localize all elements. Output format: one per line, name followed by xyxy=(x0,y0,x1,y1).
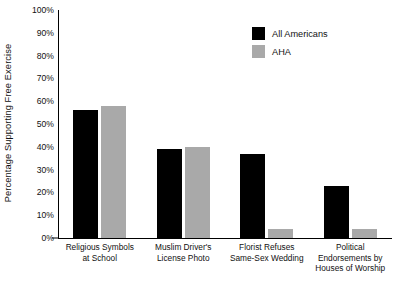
bar xyxy=(185,147,210,238)
x-axis-category-label: Florist RefusesSame-Sex Wedding xyxy=(225,242,309,263)
bar xyxy=(73,110,98,238)
legend-item: AHA xyxy=(252,45,372,58)
x-axis-category-labels: Religious Symbolsat SchoolMuslim Driver'… xyxy=(58,242,392,287)
y-axis-tick-label: 50% xyxy=(37,119,54,129)
x-axis-line xyxy=(58,238,392,239)
bar xyxy=(352,229,377,238)
bar xyxy=(101,106,126,238)
bar-chart-figure: Percentage Supporting Free Exercise 0%10… xyxy=(0,0,399,287)
y-axis-tick-label: 40% xyxy=(37,142,54,152)
legend-label: All Americans xyxy=(272,29,328,39)
y-axis-tick-label: 70% xyxy=(37,73,54,83)
x-axis-category-label-line: Political xyxy=(309,242,393,253)
bar xyxy=(268,229,293,238)
y-axis-line xyxy=(58,10,59,238)
x-axis-category-label: Religious Symbolsat School xyxy=(58,242,142,263)
x-axis-category-label: Muslim Driver'sLicense Photo xyxy=(142,242,226,263)
y-axis-tick-labels: 0%10%20%30%40%50%60%70%80%90%100% xyxy=(16,0,58,248)
y-axis-tick-label: 10% xyxy=(37,210,54,220)
legend: All AmericansAHA xyxy=(252,27,372,63)
legend-swatch xyxy=(252,45,265,58)
x-axis-category-label-line: Muslim Driver's xyxy=(142,242,226,253)
y-axis-tick-label: 30% xyxy=(37,165,54,175)
x-axis-category-label-line: Religious Symbols xyxy=(58,242,142,253)
y-axis-tick-label: 80% xyxy=(37,51,54,61)
y-axis-tick-label: 100% xyxy=(32,5,54,15)
x-axis-category-label: PoliticalEndorsements byHouses of Worshi… xyxy=(309,242,393,274)
x-axis-category-label-line: at School xyxy=(58,253,142,264)
bar xyxy=(324,186,349,238)
y-axis-title-text: Percentage Supporting Free Exercise xyxy=(3,43,13,202)
legend-label: AHA xyxy=(272,47,291,57)
y-axis-tick-label: 20% xyxy=(37,187,54,197)
bar-group xyxy=(73,10,126,238)
legend-item: All Americans xyxy=(252,27,372,40)
x-axis-category-label-line: Endorsements by xyxy=(309,253,393,264)
y-axis-tick-label: 60% xyxy=(37,96,54,106)
x-axis-category-label-line: Florist Refuses xyxy=(225,242,309,253)
y-axis-title: Percentage Supporting Free Exercise xyxy=(0,0,16,245)
bar-group xyxy=(157,10,210,238)
legend-swatch xyxy=(252,27,265,40)
bar xyxy=(240,154,265,238)
y-axis-tick-label: 90% xyxy=(37,28,54,38)
bar xyxy=(157,149,182,238)
x-axis-category-label-line: License Photo xyxy=(142,253,226,264)
x-axis-category-label-line: Same-Sex Wedding xyxy=(225,253,309,264)
x-axis-category-label-line: Houses of Worship xyxy=(309,263,393,274)
